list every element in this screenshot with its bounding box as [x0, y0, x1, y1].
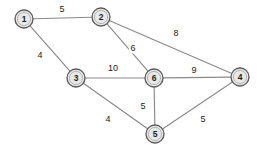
- node-label-text: 2: [99, 12, 104, 22]
- graph-node-4[interactable]: 4: [231, 68, 249, 86]
- edges-layer: [30, 17, 232, 128]
- graph-edge-6-5: [154, 87, 155, 124]
- graph-node-5[interactable]: 5: [146, 125, 164, 143]
- edge-weight-label-1-2: 5: [58, 4, 66, 15]
- graph-edge-6-4: [163, 77, 230, 78]
- edge-weight-text: 5: [59, 4, 64, 14]
- graph-edge-1-2: [33, 17, 91, 19]
- edge-weight-label-6-4: 9: [190, 65, 198, 76]
- edge-weight-label-3-5: 4: [104, 114, 112, 125]
- nodes-layer: 123456: [15, 8, 249, 143]
- graph-canvas: 5468104955 123456: [0, 0, 262, 155]
- edge-weight-text: 6: [130, 43, 135, 53]
- node-label-text: 3: [74, 73, 79, 83]
- graph-node-3[interactable]: 3: [67, 69, 85, 87]
- edge-weight-text: 8: [173, 28, 178, 38]
- edge-weight-label-2-6: 6: [129, 43, 137, 54]
- node-label-text: 4: [238, 72, 243, 82]
- node-label-text: 5: [153, 129, 158, 139]
- edge-weight-text: 5: [200, 114, 205, 124]
- edge-weight-text: 4: [105, 114, 110, 124]
- edge-weight-label-3-6: 10: [106, 63, 119, 74]
- edge-weight-text: 4: [37, 50, 42, 60]
- edge-weight-text: 10: [108, 63, 118, 73]
- graph-edge-3-5: [84, 83, 147, 128]
- graph-figure: 5468104955 123456: [0, 0, 262, 155]
- edge-weight-label-1-3: 4: [36, 50, 44, 61]
- edge-labels-layer: 5468104955: [36, 4, 207, 125]
- graph-edge-2-4: [110, 21, 232, 73]
- graph-node-2[interactable]: 2: [92, 8, 110, 26]
- graph-node-1[interactable]: 1: [15, 10, 33, 28]
- edge-weight-label-2-4: 8: [172, 28, 180, 39]
- edge-weight-text: 9: [191, 65, 196, 75]
- node-label-text: 6: [152, 73, 157, 83]
- graph-edge-1-3: [30, 26, 69, 71]
- edge-weight-text: 5: [140, 101, 145, 111]
- graph-edge-5-4: [163, 82, 232, 128]
- edge-weight-label-5-4: 5: [199, 114, 207, 125]
- node-label-text: 1: [22, 14, 27, 24]
- edge-weight-label-6-5: 5: [139, 101, 147, 112]
- graph-node-6[interactable]: 6: [145, 69, 163, 87]
